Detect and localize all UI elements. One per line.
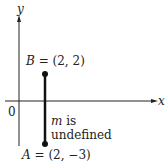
point-b-label: B = (2, 2) (26, 55, 85, 67)
point-b-coords: (2, 2) (53, 54, 85, 68)
y-axis-label: y (17, 3, 24, 15)
equals-sign: = (39, 54, 49, 68)
point-a-coords: (2, −3) (48, 148, 90, 162)
origin-label: 0 (8, 106, 16, 118)
slope-annotation-line2: undefined (51, 129, 112, 141)
slope-annotation-line1: m is (51, 115, 76, 127)
point-a (42, 141, 48, 147)
point-b (42, 71, 48, 77)
point-b-name: B (26, 54, 35, 68)
point-a-name: A (22, 148, 31, 162)
slope-symbol: m (51, 114, 62, 128)
point-a-label: A = (2, −3) (22, 149, 91, 161)
slope-text-is: is (66, 114, 76, 128)
y-axis-arrow-icon (17, 15, 21, 22)
x-axis-label: x (158, 95, 165, 107)
equals-sign: = (35, 148, 45, 162)
x-axis-arrow-icon (151, 99, 158, 103)
